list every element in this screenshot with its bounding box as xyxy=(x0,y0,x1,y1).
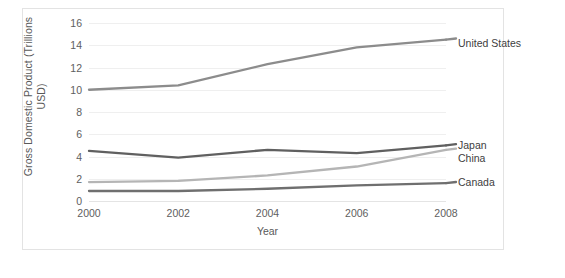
y-tick-label-4: 4 xyxy=(76,151,82,163)
y-axis-title-line1: Gross Domestic Product (Trillions xyxy=(22,17,34,176)
y-tick-label-14: 14 xyxy=(70,39,82,51)
gdp-line-chart: Gross Domestic Product (Trillions USD) 0… xyxy=(0,0,565,278)
gridline-0 xyxy=(89,201,446,202)
series-line-stub-united-states xyxy=(446,38,456,39)
y-tick-label-2: 2 xyxy=(76,173,82,185)
x-tick-label-2006: 2006 xyxy=(345,207,368,219)
series-line-stub-japan xyxy=(446,144,456,145)
series-label-china: China xyxy=(458,152,485,164)
y-tick-label-8: 8 xyxy=(76,106,82,118)
series-label-japan: Japan xyxy=(458,139,487,151)
y-tick-label-6: 6 xyxy=(76,128,82,140)
series-line-united-states xyxy=(89,40,446,90)
x-tick-label-2000: 2000 xyxy=(77,207,100,219)
y-tick-label-16: 16 xyxy=(70,17,82,29)
y-tick-label-10: 10 xyxy=(70,84,82,96)
y-axis-title-line2: USD) xyxy=(34,83,46,109)
y-axis-title: Gross Domestic Product (Trillions USD) xyxy=(22,0,47,197)
plot-area: 0 2 4 6 8 10 12 14 16 2000 2002 2004 200… xyxy=(89,23,446,201)
series-line-stub-canada xyxy=(446,182,456,183)
series-line-canada xyxy=(89,183,446,191)
y-tick-label-0: 0 xyxy=(76,195,82,207)
series-line-stub-china xyxy=(446,149,456,150)
x-tick-label-2002: 2002 xyxy=(167,207,190,219)
x-axis-title: Year xyxy=(89,225,446,237)
series-label-united-states: United States xyxy=(458,37,521,49)
series-line-japan xyxy=(89,145,446,157)
y-tick-label-12: 12 xyxy=(70,62,82,74)
x-tick-label-2004: 2004 xyxy=(256,207,279,219)
series-lines xyxy=(89,23,446,201)
series-label-canada: Canada xyxy=(458,176,495,188)
x-tick-label-2008: 2008 xyxy=(434,207,457,219)
